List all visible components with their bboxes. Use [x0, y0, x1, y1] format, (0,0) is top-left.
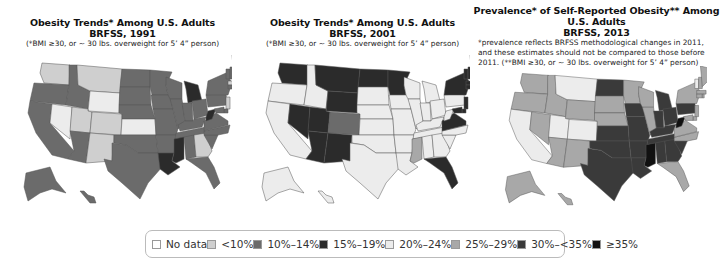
state-ar	[394, 135, 414, 153]
state-de	[693, 117, 697, 121]
us-map-2001	[260, 55, 470, 215]
legend-item-lt10: <10%	[207, 238, 253, 250]
swatch-10-14	[253, 240, 262, 249]
state-ct	[466, 85, 470, 89]
state-ct	[697, 94, 703, 98]
state-de	[224, 109, 228, 113]
state-ma	[228, 81, 232, 85]
state-nj	[226, 97, 230, 109]
state-ks	[121, 119, 156, 135]
state-ak	[505, 171, 544, 203]
map-title: Prevalence* of Self-Reported Obesity** A…	[470, 5, 723, 27]
state-md	[452, 107, 462, 113]
state-ms	[172, 137, 184, 163]
state-ne	[357, 105, 393, 119]
state-oh	[430, 99, 446, 119]
map-note: (*BMI ≥30, or ~ 30 lbs. overweight for 5…	[240, 39, 485, 49]
legend-item-ge35: ≥35%	[592, 238, 638, 250]
legend: No data <10% 10%–14% 15%–19% 20%–24% 25%…	[145, 230, 565, 258]
state-ma	[697, 90, 706, 94]
map-subtitle: BRFSS, 2001	[240, 28, 485, 39]
map-note-line: *prevalence reflects BRFSS methodologica…	[470, 38, 723, 48]
state-wa	[278, 63, 308, 85]
state-co	[328, 112, 360, 135]
state-ms	[644, 143, 655, 167]
us-map-1991	[22, 55, 232, 215]
state-nj	[464, 97, 468, 109]
state-nj	[695, 105, 699, 116]
state-nd	[120, 69, 150, 87]
state-nm	[564, 139, 590, 167]
us-map-2013	[497, 66, 707, 216]
swatch-25-29	[451, 240, 460, 249]
state-md	[214, 107, 224, 113]
state-ks	[596, 126, 629, 141]
state-hi	[318, 191, 334, 203]
swatch-15-19	[319, 240, 328, 249]
state-de	[462, 109, 466, 113]
state-ma	[466, 81, 470, 85]
state-wa	[40, 63, 70, 85]
map-title: Obesity Trends* Among U.S. Adults	[0, 17, 245, 28]
state-oh	[663, 107, 678, 126]
state-nd	[358, 69, 388, 87]
state-hi	[558, 194, 573, 205]
state-sd	[119, 87, 151, 105]
state-fl	[657, 162, 689, 192]
map-panel-1991: Obesity Trends* Among U.S. Adults BRFSS,…	[0, 0, 245, 49]
state-fl	[424, 157, 458, 189]
state-ms	[410, 137, 422, 163]
map-subtitle: BRFSS, 1991	[0, 28, 245, 39]
state-fl	[186, 157, 220, 189]
state-ri	[702, 94, 704, 98]
state-ak	[262, 167, 304, 201]
legend-item-30-35: 30%–<35%	[517, 238, 592, 250]
swatch-ge35	[592, 240, 601, 249]
map-panel-2013: Prevalence* of Self-Reported Obesity** A…	[470, 0, 723, 68]
swatch-lt10	[207, 240, 216, 249]
state-hi	[80, 191, 96, 203]
state-sd	[595, 96, 625, 113]
state-vt	[226, 69, 230, 79]
state-oh	[192, 99, 208, 119]
state-mi	[422, 81, 440, 103]
state-nd	[595, 79, 623, 96]
state-vt	[695, 79, 699, 88]
state-nm	[86, 133, 114, 163]
state-co	[567, 119, 597, 141]
state-wi	[639, 87, 654, 108]
state-wi	[404, 77, 420, 99]
state-wy	[326, 91, 358, 113]
state-ar	[629, 141, 648, 158]
state-nm	[324, 133, 352, 163]
state-ne	[595, 113, 629, 126]
legend-item-10-14: 10%–14%	[253, 238, 319, 250]
map-title: Obesity Trends* Among U.S. Adults	[240, 17, 485, 28]
state-ks	[359, 119, 394, 135]
legend-item-15-19: 15%–19%	[319, 238, 385, 250]
state-nh	[468, 67, 470, 79]
state-sd	[357, 87, 389, 105]
map-panel-2001: Obesity Trends* Among U.S. Adults BRFSS,…	[240, 0, 485, 49]
state-nh	[230, 67, 232, 79]
state-wy	[565, 100, 595, 121]
state-co	[90, 112, 122, 135]
state-mi	[655, 90, 672, 111]
swatch-20-24	[385, 240, 394, 249]
swatch-no-data	[152, 240, 161, 249]
state-ak	[24, 167, 66, 201]
state-ar	[156, 135, 176, 153]
state-mi	[184, 81, 202, 103]
state-ct	[228, 85, 232, 89]
legend-item-20-24: 20%–24%	[385, 238, 451, 250]
map-note-line: and these estimates should not be compar…	[470, 48, 723, 58]
state-ne	[119, 105, 155, 119]
state-wy	[88, 91, 120, 113]
legend-item-25-29: 25%–29%	[451, 238, 517, 250]
legend-item-no-data: No data	[152, 238, 207, 250]
state-vt	[464, 69, 468, 79]
state-md	[684, 115, 693, 121]
state-wa	[520, 74, 548, 95]
map-subtitle: BRFSS, 2013	[470, 27, 723, 38]
state-wi	[166, 77, 182, 99]
